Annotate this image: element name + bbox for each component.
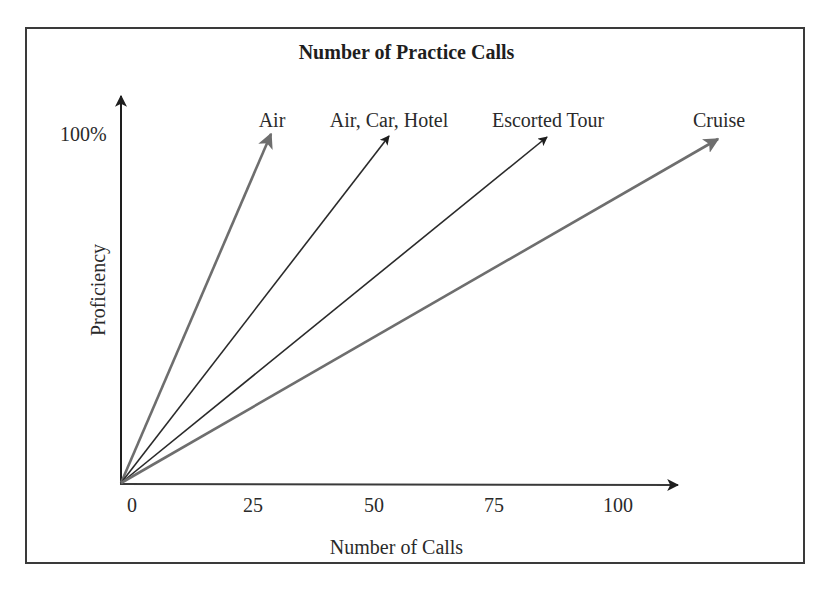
- x-tick-label: 75: [484, 495, 504, 515]
- plot-area: [0, 0, 813, 597]
- x-axis: [120, 484, 678, 485]
- series-arrow-air-car-hotel: [121, 136, 389, 483]
- series-arrow-air: [121, 134, 271, 483]
- x-tick-label: 100: [603, 495, 633, 515]
- x-tick-label: 50: [364, 495, 384, 515]
- y-axis-title: Proficiency: [88, 244, 108, 336]
- x-axis-title: Number of Calls: [0, 537, 793, 557]
- series-arrow-escorted-tour: [121, 137, 547, 483]
- series-label-escorted-tour: Escorted Tour: [492, 110, 604, 130]
- y-axis-max-label: 100%: [60, 124, 107, 144]
- series-label-cruise: Cruise: [693, 110, 745, 130]
- chart-title: Number of Practice Calls: [0, 42, 813, 62]
- x-tick-label: 0: [127, 495, 137, 515]
- x-tick-label: 25: [243, 495, 263, 515]
- series-arrow-cruise: [121, 139, 718, 483]
- series-label-air-car-hotel: Air, Car, Hotel: [330, 110, 448, 130]
- series-label-air: Air: [259, 110, 286, 130]
